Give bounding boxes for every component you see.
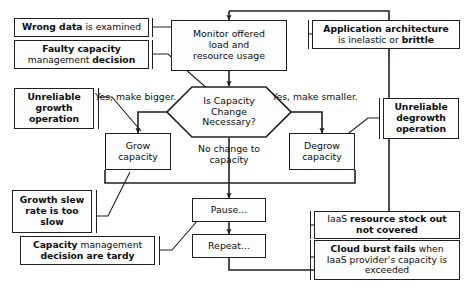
monitor-line-1: Monitor offered — [193, 28, 265, 39]
app-architecture-brittle-bold: brittle — [402, 34, 434, 45]
node-monitor-offered-load: Monitor offered load and resource usage — [171, 20, 287, 71]
grow-line-2: capacity — [118, 151, 158, 162]
growth-slew-line-3: slow — [40, 216, 63, 227]
annotation-cloud-burst-fails: Cloud burst fails when IaaS provider's c… — [314, 240, 460, 280]
node-grow-capacity: Grow capacity — [105, 133, 171, 170]
annotation-marker-iaas-stock-out — [310, 211, 311, 239]
app-architecture-bold: Application architecture — [323, 23, 448, 34]
faulty-capacity-plain: management — [28, 54, 92, 65]
annotation-growth-slew-rate-too-slow: Growth slew rate is too slow — [12, 190, 92, 233]
annotation-marker-app-architecture — [308, 20, 309, 49]
cloud-burst-line-2: IaaS provider's capacity is — [327, 254, 447, 265]
leader-growth-slew — [96, 172, 130, 216]
decision-line-3: Necessary? — [202, 116, 256, 127]
annotation-marker-capacity-tardy — [159, 236, 160, 265]
unreliable-growth-line-1: Unreliable — [27, 91, 80, 102]
edge-label-no-change-to-capacity: No change to capacity — [189, 144, 269, 166]
grow-line-1: Grow — [126, 140, 150, 151]
iaas-stock-out-bold: resource stock out — [350, 213, 447, 224]
pause-label: Pause... — [193, 205, 265, 216]
annotation-marker-growth-slew — [96, 190, 97, 233]
monitor-line-3: resource usage — [193, 50, 265, 61]
annotation-marker-unreliable-degrowth — [379, 98, 380, 139]
unreliable-degrowth-line-2: degrowth — [396, 112, 446, 123]
growth-slew-line-2: rate is too — [25, 205, 78, 216]
edge-label-yes-make-smaller: Yes, make smaller. — [272, 92, 358, 103]
unreliable-growth-line-2: growth — [36, 102, 73, 113]
growth-slew-line-1: Growth slew — [20, 194, 84, 205]
capacity-tardy-line-2: decision are tardy — [41, 250, 135, 261]
faulty-capacity-decision-bold: decision — [92, 54, 135, 65]
edge-label-yes-make-bigger: Yes, make bigger. — [95, 92, 176, 103]
no-change-line-1: No change to — [198, 143, 260, 154]
unreliable-degrowth-line-3: operation — [396, 123, 446, 134]
annotation-marker-wrong-data — [152, 18, 153, 37]
node-pause: Pause... — [192, 198, 266, 222]
cloud-burst-line-3: exceeded — [365, 264, 409, 275]
unreliable-growth-line-3: operation — [29, 113, 79, 124]
annotation-unreliable-growth-operation: Unreliable growth operation — [14, 88, 94, 129]
annotation-application-architecture-inelastic: Application architecture is inelastic or… — [312, 20, 460, 49]
repeat-label: Repeat... — [193, 241, 265, 252]
degrow-line-1: Degrow — [304, 140, 340, 151]
iaas-stock-out-line-2: not covered — [356, 224, 418, 235]
faulty-capacity-bold: Faulty capacity — [42, 43, 121, 54]
wrong-data-bold: Wrong data — [22, 21, 83, 32]
unreliable-degrowth-line-1: Unreliable — [394, 101, 447, 112]
decision-line-1: Is Capacity — [203, 95, 255, 106]
capacity-tardy-rest: management — [78, 239, 142, 250]
annotation-iaas-resource-stock-out: IaaS resource stock out not covered — [314, 211, 460, 239]
wrong-data-rest: is examined — [82, 21, 141, 32]
monitor-line-2: load and — [209, 39, 250, 50]
node-repeat: Repeat... — [192, 234, 266, 258]
decision-line-2: Change — [211, 106, 247, 117]
annotation-faulty-capacity-management-decision: Faulty capacity management decision — [14, 40, 149, 69]
degrow-join-path — [229, 170, 355, 183]
app-architecture-plain: is inelastic or — [338, 34, 402, 45]
cloud-burst-rest: when — [416, 243, 444, 254]
flowchart-canvas: Monitor offered load and resource usage … — [0, 0, 466, 298]
capacity-tardy-bold: Capacity — [33, 239, 78, 250]
node-degrow-capacity: Degrow capacity — [289, 133, 355, 170]
annotation-capacity-management-decision-tardy: Capacity management decision are tardy — [20, 236, 155, 265]
annotation-marker-faulty-capacity — [152, 40, 153, 69]
cloud-burst-bold: Cloud burst fails — [331, 243, 416, 254]
annotation-unreliable-degrowth-operation: Unreliable degrowth operation — [383, 98, 459, 139]
annotation-wrong-data-is-examined: Wrong data is examined — [14, 18, 149, 37]
iaas-stock-out-plain: IaaS — [327, 213, 350, 224]
grow-join-path — [105, 170, 229, 183]
degrow-line-2: capacity — [302, 151, 342, 162]
no-change-line-2: capacity — [209, 154, 248, 165]
annotation-marker-cloud-burst — [310, 240, 311, 280]
